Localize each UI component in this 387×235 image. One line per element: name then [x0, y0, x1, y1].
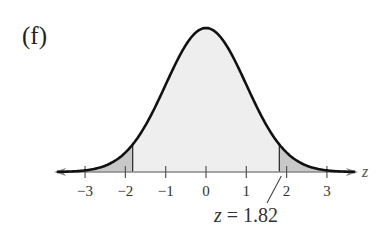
- x-tick-label: 1: [243, 183, 251, 199]
- x-tick-label: 2: [283, 183, 291, 199]
- x-tick-label: −1: [158, 183, 174, 199]
- axis-label: z: [361, 163, 369, 180]
- annotation-value: = 1.82: [222, 204, 278, 226]
- x-tick-label: −3: [77, 183, 93, 199]
- curve-body-fill: [133, 28, 280, 172]
- z-annotation: z = 1.82: [213, 204, 278, 226]
- x-tick-label: 3: [323, 183, 331, 199]
- annotation-leader-line: [267, 176, 281, 203]
- normal-curve-chart: −3−2−10123 z z = 1.82: [0, 0, 387, 235]
- annotation-var: z: [213, 204, 222, 226]
- x-tick-label: −2: [117, 183, 133, 199]
- x-tick-label: 0: [202, 183, 210, 199]
